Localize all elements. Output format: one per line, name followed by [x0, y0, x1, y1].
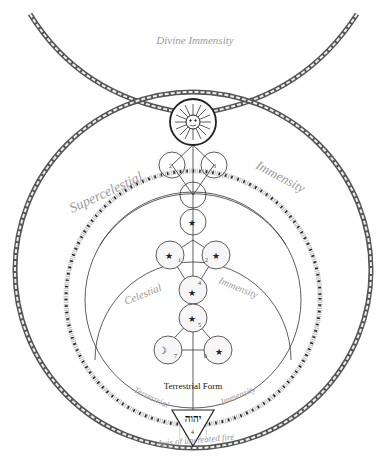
- svg-text:★: ★: [188, 288, 196, 298]
- svg-text:6: 6: [204, 353, 207, 359]
- svg-text:★: ★: [215, 347, 223, 357]
- tetragrammaton: יהוה: [185, 413, 202, 424]
- svg-text:★: ★: [188, 218, 196, 228]
- svg-text:★: ★: [165, 251, 173, 261]
- label-celestial: Celestial: [122, 281, 163, 307]
- node-center-4: ★ 4: [179, 276, 207, 304]
- svg-text:5: 5: [198, 322, 201, 328]
- svg-text:7: 7: [174, 353, 177, 359]
- divine-chain: [30, 14, 357, 112]
- node-left-lower: ☽ 7: [154, 336, 182, 364]
- sun-face-icon: [175, 104, 211, 140]
- label-divine-immensity: Divine Immensity: [155, 34, 233, 46]
- node-right-lower: ★ 6: [204, 336, 232, 364]
- svg-text:★: ★: [212, 251, 220, 261]
- node-left-middle: ★ 1: [156, 241, 184, 269]
- node-right-middle: ★ 2: [202, 241, 230, 269]
- label-terrestrial-form: Terrestrial Form: [164, 381, 223, 391]
- svg-text:★: ★: [188, 314, 196, 324]
- svg-text:4: 4: [198, 280, 201, 286]
- label-celestial-immensity: Immensity: [216, 274, 260, 300]
- svg-text:3: 3: [213, 163, 216, 169]
- svg-text:☽: ☽: [158, 345, 167, 356]
- svg-text:4: 4: [191, 429, 194, 435]
- label-terrestrial-immensity: Immensity: [218, 384, 257, 408]
- svg-text:1: 1: [178, 257, 181, 263]
- crown-node: [170, 99, 216, 145]
- svg-text:2: 2: [205, 257, 208, 263]
- cosmological-diagram: 2 3 ★ ★ 1 ★ 2 ★ 4 ★ 5 ☽ 7: [0, 0, 385, 473]
- svg-text:2: 2: [169, 163, 172, 169]
- node-center-5: ★ 5: [179, 304, 207, 332]
